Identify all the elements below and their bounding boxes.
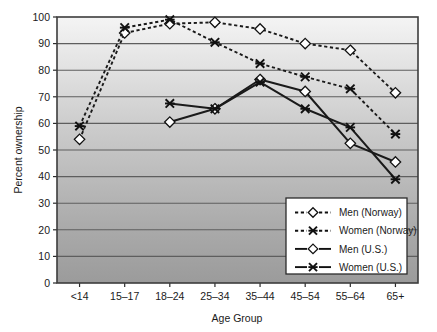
- y-tick-label: 0: [44, 277, 50, 289]
- y-axis-title: Percent ownership: [12, 106, 24, 193]
- y-tick-label: 20: [38, 224, 50, 236]
- y-tick-label: 50: [38, 144, 50, 156]
- x-tick-label: 45–54: [291, 290, 320, 302]
- x-axis-title: Age Group: [212, 312, 263, 324]
- y-tick-label: 70: [38, 91, 50, 103]
- y-tick-label: 30: [38, 197, 50, 209]
- legend-label: Men (U.S.): [339, 244, 387, 255]
- chart-container: 0102030405060708090100 <1415–1718–2425–3…: [0, 0, 437, 332]
- y-tick-label: 10: [38, 250, 50, 262]
- y-tick-label: 40: [38, 170, 50, 182]
- y-tick-label: 100: [32, 11, 50, 23]
- y-tick-label: 80: [38, 64, 50, 76]
- x-tick-label: 35–44: [245, 290, 274, 302]
- y-tick-label: 60: [38, 117, 50, 129]
- x-tick-label: 18–24: [155, 290, 184, 302]
- y-tick-label: 90: [38, 37, 50, 49]
- legend[interactable]: Men (Norway)Women (Norway)Men (U.S.)Wome…: [286, 198, 417, 274]
- legend-label: Women (Norway): [339, 225, 417, 236]
- legend-label: Men (Norway): [339, 207, 402, 218]
- x-tick-label: 25–34: [200, 290, 229, 302]
- x-tick-label: 65+: [387, 290, 405, 302]
- line-chart: 0102030405060708090100 <1415–1718–2425–3…: [0, 0, 437, 332]
- x-tick-label: 15–17: [110, 290, 139, 302]
- x-tick-label: <14: [71, 290, 89, 302]
- legend-label: Women (U.S.): [339, 262, 402, 273]
- x-tick-label: 55–64: [336, 290, 365, 302]
